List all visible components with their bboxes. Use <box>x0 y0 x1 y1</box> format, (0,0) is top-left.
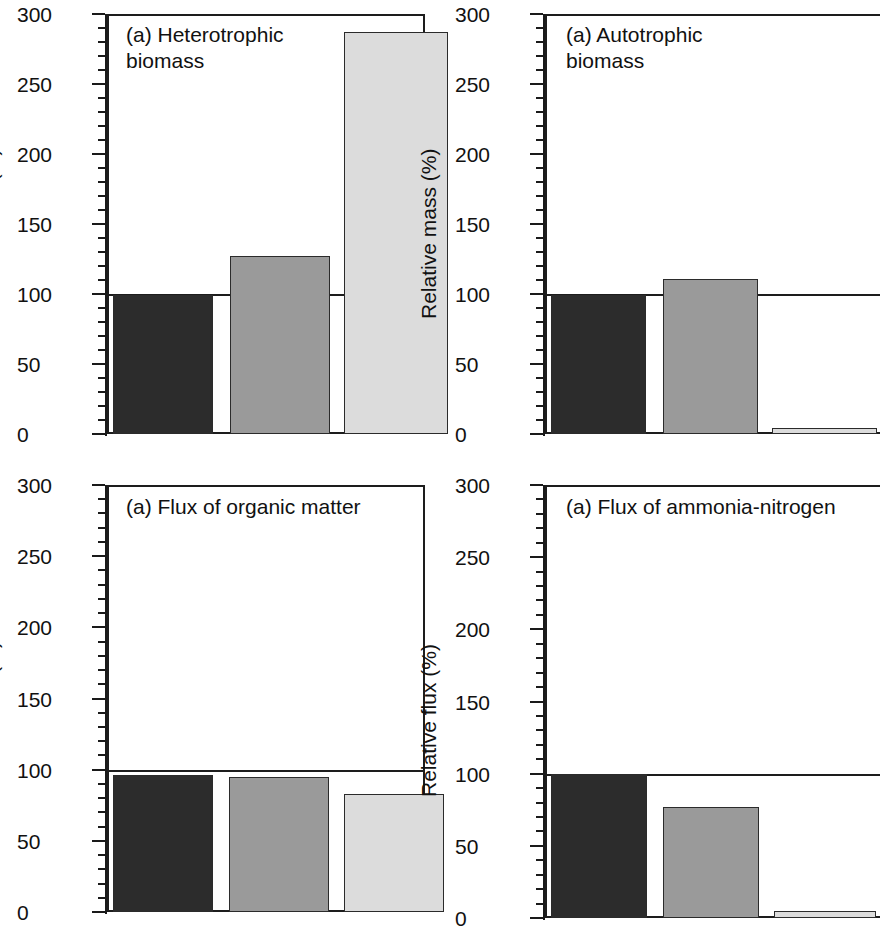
tick-minor-60 <box>536 830 543 832</box>
tick-minor-120 <box>536 744 543 746</box>
tick-minor-160 <box>536 686 543 688</box>
tick-minor-110 <box>536 758 543 760</box>
tick-minor-20 <box>536 888 543 890</box>
tick-minor-40 <box>536 859 543 861</box>
tick-minor-170 <box>536 672 543 674</box>
bar-flux-ammonia-nitrogen-3 <box>774 911 876 918</box>
tick-major-200 <box>530 628 543 630</box>
y-tick-label-100: 100 <box>455 763 527 784</box>
y-axis-label-flux-ammonia-nitrogen: Relative flux (%) <box>417 644 441 797</box>
tick-minor-290 <box>536 498 543 500</box>
tick-minor-190 <box>536 643 543 645</box>
tick-minor-10 <box>536 903 543 905</box>
tick-minor-130 <box>536 729 543 731</box>
panel-title-flux-ammonia-nitrogen: (a) Flux of ammonia-nitrogen <box>566 494 836 520</box>
bar-flux-ammonia-nitrogen-1 <box>551 774 647 918</box>
tick-minor-80 <box>536 802 543 804</box>
tick-minor-230 <box>536 585 543 587</box>
tick-major-150 <box>530 701 543 703</box>
y-tick-label-200: 200 <box>455 619 527 640</box>
tick-minor-260 <box>536 542 543 544</box>
tick-minor-180 <box>536 657 543 659</box>
tick-minor-240 <box>536 571 543 573</box>
y-axis-spine <box>543 485 545 920</box>
tick-minor-70 <box>536 816 543 818</box>
tick-major-300 <box>530 484 543 486</box>
y-tick-label-150: 150 <box>455 691 527 712</box>
tick-major-100 <box>530 773 543 775</box>
tick-minor-140 <box>536 715 543 717</box>
tick-major-250 <box>530 556 543 558</box>
tick-minor-220 <box>536 599 543 601</box>
y-tick-label-0: 0 <box>455 908 527 929</box>
tick-minor-280 <box>536 513 543 515</box>
tick-major-50 <box>530 845 543 847</box>
y-tick-label-50: 50 <box>455 835 527 856</box>
tick-minor-270 <box>536 527 543 529</box>
tick-major-0 <box>530 917 543 919</box>
y-tick-label-300: 300 <box>455 475 527 496</box>
tick-minor-210 <box>536 614 543 616</box>
y-tick-label-250: 250 <box>455 547 527 568</box>
tick-minor-30 <box>536 874 543 876</box>
bar-flux-ammonia-nitrogen-2 <box>663 807 759 918</box>
tick-minor-90 <box>536 787 543 789</box>
